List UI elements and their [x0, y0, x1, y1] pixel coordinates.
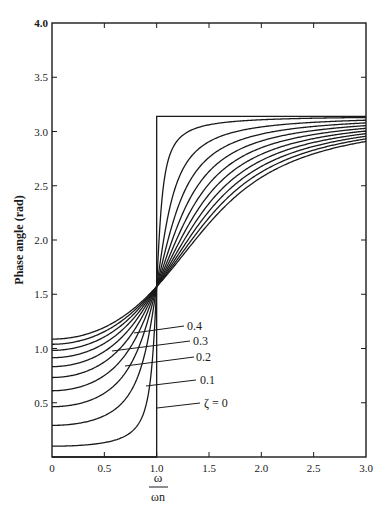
y-tick-label: 4.0	[34, 17, 48, 29]
curve-0.7	[52, 134, 366, 358]
x-tick-label: 0	[49, 462, 55, 474]
curve-label: 0.2	[196, 350, 211, 364]
plot-frame	[52, 23, 366, 457]
x-tick-label: 2.5	[307, 462, 321, 474]
label-leader-line	[157, 403, 200, 408]
y-tick-label: 2.0	[34, 234, 48, 246]
y-tick-label: 3.5	[34, 71, 48, 83]
phase-angle-chart: 00.51.01.52.02.53.00.51.01.52.02.53.03.5…	[0, 0, 391, 516]
y-tick-label: 1.5	[34, 288, 48, 300]
x-tick-label: 2.0	[254, 462, 268, 474]
label-leader-line	[146, 380, 196, 386]
x-tick-label: 1.5	[202, 462, 216, 474]
curve-0.3	[52, 123, 366, 407]
x-tick-label: 3.0	[359, 462, 373, 474]
x-axis-denominator: ωn	[151, 490, 165, 504]
curve-0.9	[52, 139, 366, 344]
x-axis-title: ω ωn	[149, 470, 168, 504]
curve-label: ζ = 0	[204, 396, 228, 410]
curve-labels: ζ = 00.10.20.30.4	[112, 319, 228, 410]
curve-label: 0.1	[200, 373, 215, 387]
curve-label: 0.3	[193, 334, 208, 348]
curve-0.8	[52, 136, 366, 350]
label-leader-line	[112, 341, 190, 351]
curve-label: 0.4	[187, 319, 202, 333]
x-tick-label: 0.5	[97, 462, 111, 474]
y-tick-label: 1.0	[34, 343, 48, 355]
plot-border	[52, 23, 366, 457]
x-axis-numerator: ω	[154, 470, 163, 485]
curve-0.6	[52, 131, 366, 367]
y-tick-label: 2.5	[34, 180, 48, 192]
y-tick-label: 3.0	[34, 126, 48, 138]
y-tick-label: 0.5	[34, 397, 48, 409]
label-leader-line	[125, 357, 194, 366]
y-axis-title: Phase angle (rad)	[12, 195, 26, 284]
